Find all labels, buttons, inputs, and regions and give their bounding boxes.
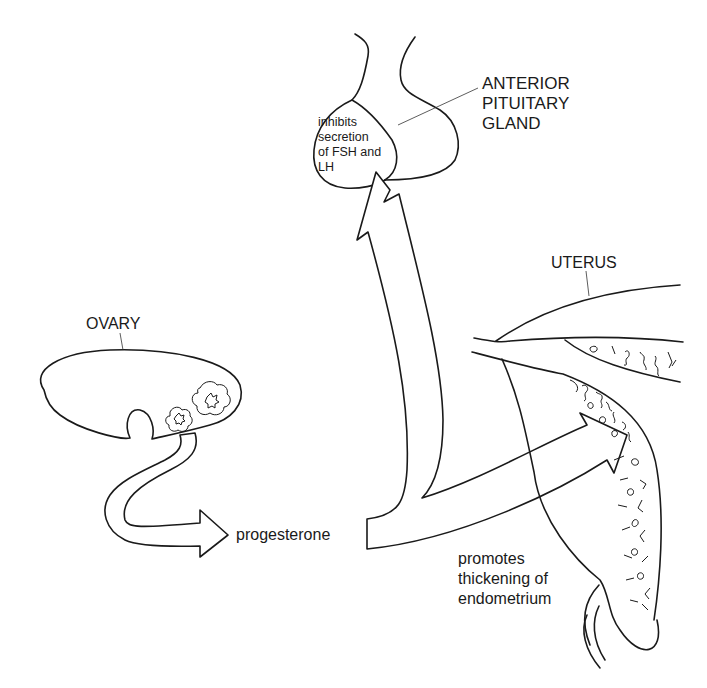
hormone-label: progesterone — [236, 525, 330, 545]
ovary-shape — [41, 350, 242, 439]
pituitary-label: ANTERIOR PITUITARY GLAND — [482, 74, 570, 134]
uterus-label: UTERUS — [551, 253, 617, 273]
ovary-to-progesterone-arrow — [105, 433, 228, 557]
uterus-leader-line — [586, 271, 589, 296]
pituitary-effect-label: inhibits secretion of FSH and LH — [318, 115, 381, 175]
uterus-effect-label: promotes thickening of endometrium — [458, 549, 551, 609]
progesterone-fork-arrow — [357, 172, 627, 549]
diagram-canvas — [0, 0, 707, 688]
ovary-label: OVARY — [86, 314, 141, 334]
ovary-leader-line — [120, 333, 123, 350]
